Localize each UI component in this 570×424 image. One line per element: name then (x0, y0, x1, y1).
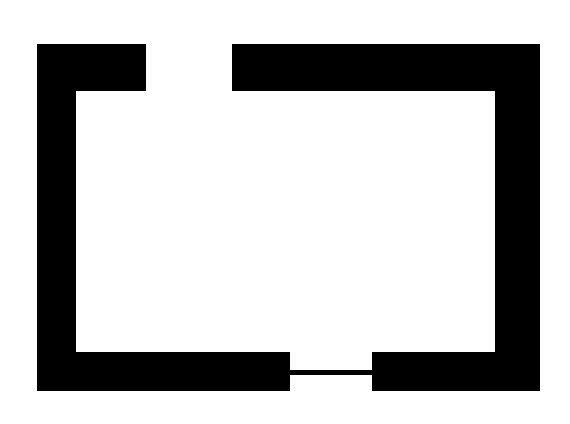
split-ring-resonator-figure (0, 0, 570, 424)
figure-canvas (0, 0, 570, 424)
